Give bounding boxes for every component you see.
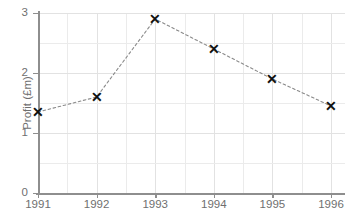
x-tick-label: 1995: [249, 199, 295, 211]
gridline-horizontal: [38, 133, 345, 134]
x-tick-label: 1991: [15, 199, 61, 211]
gridline-horizontal: [38, 103, 345, 104]
chart-container: 0123 199119921993199419951996 Profit (£m…: [0, 0, 351, 222]
data-point-marker: ✕: [91, 90, 103, 104]
y-axis-title: Profit (£m): [21, 76, 33, 130]
gridline-horizontal: [38, 73, 345, 74]
y-axis-title-wrap: Profit (£m): [2, 13, 18, 193]
x-tick-label: 1994: [191, 199, 237, 211]
data-point-marker: ✕: [32, 105, 44, 119]
y-tick-mark: [33, 13, 38, 14]
x-tick-label: 1992: [74, 199, 120, 211]
data-point-marker: ✕: [266, 72, 278, 86]
x-tick-label: 1996: [308, 199, 351, 211]
data-point-marker: ✕: [325, 99, 337, 113]
x-axis-line: [36, 193, 345, 195]
y-tick-mark: [33, 73, 38, 74]
x-tick-label: 1993: [132, 199, 178, 211]
y-tick-mark: [33, 133, 38, 134]
data-point-marker: ✕: [149, 12, 161, 26]
data-point-marker: ✕: [208, 42, 220, 56]
plot-area: [38, 13, 345, 193]
y-axis-line: [38, 11, 40, 195]
gridline-horizontal: [38, 163, 345, 164]
gridline-horizontal: [38, 13, 345, 14]
gridline-horizontal: [38, 43, 345, 44]
